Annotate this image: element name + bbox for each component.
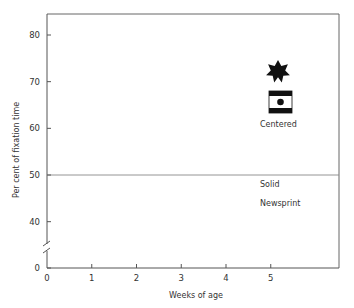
- y-tick-label: 60: [29, 123, 40, 133]
- plot-frame: [43, 14, 339, 268]
- y-axis-title: Per cent of fixation time: [12, 102, 21, 198]
- x-tick-label: 1: [89, 273, 94, 283]
- legend-label-centered: Centered: [260, 120, 297, 129]
- x-tick-label: 2: [134, 273, 139, 283]
- x-tick-label: 3: [179, 273, 184, 283]
- x-tick-label: 5: [268, 273, 273, 283]
- legend: Centered Solid Newsprint: [260, 60, 300, 208]
- x-tick-label: 0: [44, 273, 49, 283]
- x-axis-ticks: 012345: [44, 264, 273, 283]
- y-tick-label: 0: [35, 263, 40, 273]
- x-axis-title: Weeks of age: [169, 291, 223, 300]
- y-axis-ticks: 04050607080: [29, 30, 51, 273]
- y-tick-label: 40: [29, 217, 40, 227]
- legend-label-newsprint: Newsprint: [260, 199, 300, 208]
- y-tick-label: 80: [29, 30, 40, 40]
- y-tick-label: 50: [29, 170, 40, 180]
- star-icon: [266, 60, 290, 82]
- legend-label-solid: Solid: [260, 180, 280, 189]
- x-tick-label: 4: [223, 273, 228, 283]
- y-tick-label: 70: [29, 77, 40, 87]
- line-chart: 04050607080 012345 Weeks of age Per cent…: [0, 0, 354, 308]
- bullseye-icon: [269, 91, 292, 113]
